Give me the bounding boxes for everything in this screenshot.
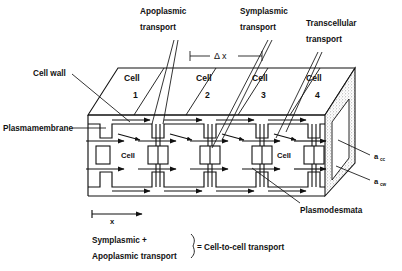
inner-cell-label-left: Cell (121, 151, 135, 160)
area-cc-sub: cc (380, 157, 386, 162)
transcellular-arrows (118, 134, 296, 140)
transcellular-line1: Transcellular (306, 19, 357, 28)
callout-apoplasmic: Apoplasmic transport (140, 7, 187, 32)
inner-cell-label-right: Cell (277, 151, 291, 160)
x-axis-label: x (110, 217, 115, 226)
cell-2-number: 2 (205, 90, 210, 100)
area-cc-base: a (374, 152, 379, 161)
callout-cell-wall: Cell wall (33, 69, 66, 78)
area-label-cw: a cw (374, 177, 387, 187)
apoplasmic-line2: transport (140, 23, 176, 32)
cell-4-number: 4 (315, 90, 320, 100)
area-cw-sub: cw (380, 182, 387, 187)
cell-wall-verticals (156, 124, 316, 187)
callout-transcellular: Transcellular transport (306, 19, 357, 44)
delta-x-label: Δ x (214, 51, 227, 61)
cell-3-number: 3 (261, 90, 266, 100)
legend-block: Symplasmic + Apoplasmic transport = Cell… (92, 234, 284, 261)
transcellular-line2: transport (306, 35, 342, 44)
cell-1-word: Cell (124, 73, 140, 83)
area-cw-base: a (374, 177, 379, 186)
callout-symplasmic: Symplasmic transport (240, 7, 288, 32)
diagram-canvas: Δ x Apoplasmic transport Symplasmic tran… (0, 0, 402, 271)
legend-equals: = Cell-to-cell transport (197, 243, 284, 252)
callout-plasmamembrane: Plasmamembrane (3, 124, 74, 133)
figure-root: Δ x Apoplasmic transport Symplasmic tran… (0, 0, 402, 271)
area-label-cc: a cc (374, 152, 386, 162)
legend-brace (191, 234, 194, 258)
cell-3-word: Cell (252, 73, 268, 83)
legend-line2: Apoplasmic transport (92, 252, 177, 261)
symplasmic-line2: transport (240, 23, 276, 32)
cell-4-word: Cell (306, 73, 322, 83)
symplasmic-line1: Symplasmic (240, 7, 288, 16)
x-axis-arrow (92, 210, 142, 218)
cell-2-word: Cell (196, 73, 212, 83)
legend-line1: Symplasmic + (92, 236, 147, 245)
apoplasmic-line1: Apoplasmic (140, 7, 187, 16)
cell-1-number: 1 (133, 90, 138, 100)
callout-plasmodesmata: Plasmodesmata (300, 206, 363, 215)
